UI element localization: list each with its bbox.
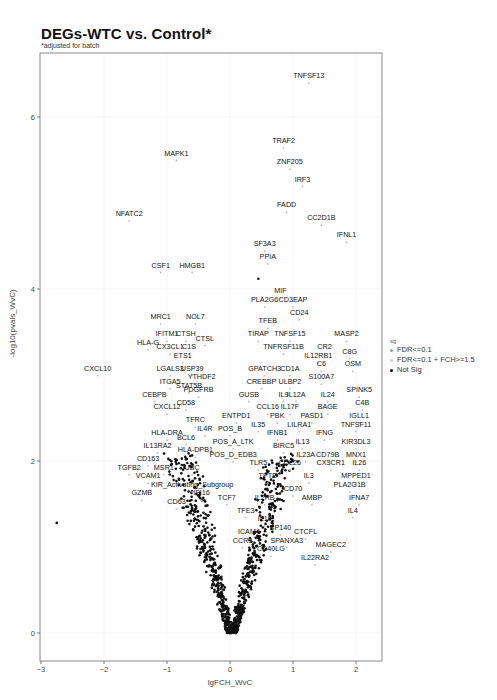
gene-label: CXCL12 bbox=[153, 402, 180, 411]
gene-label: HLA-DPB1 bbox=[178, 445, 213, 454]
legend-label: Not Sig bbox=[397, 365, 422, 375]
gene-label: LILRA1 bbox=[287, 420, 311, 429]
gene-label: CC2D1B bbox=[307, 213, 336, 222]
x-tick-label: −2 bbox=[100, 665, 109, 674]
gene-label: SPINK5 bbox=[346, 385, 372, 394]
gene-label: IL26 bbox=[352, 458, 366, 467]
gene-label: TNFSF13 bbox=[293, 71, 324, 80]
gene-label: TIRAP bbox=[248, 329, 269, 338]
gene-label: CCR9 bbox=[233, 536, 253, 545]
gene-label: PPIA bbox=[260, 252, 277, 261]
gene-label: IFNA7 bbox=[349, 493, 369, 502]
gene-label: KIR_Activating_Subgroup bbox=[151, 480, 233, 489]
gene-label: IL4 bbox=[348, 506, 358, 515]
gene-label: C4B bbox=[355, 398, 369, 407]
gene-label: IFNG bbox=[316, 428, 334, 437]
gene-label: IL22RA2 bbox=[301, 553, 329, 562]
x-tick-label: 0 bbox=[228, 665, 232, 674]
gene-label: PBK bbox=[270, 411, 285, 420]
gene-label: BCL6 bbox=[177, 433, 195, 442]
x-tick-label: −3 bbox=[37, 665, 46, 674]
gene-label: IL12A bbox=[287, 390, 306, 399]
legend-dot-icon bbox=[390, 359, 393, 362]
gene-label: MAPK1 bbox=[164, 149, 188, 158]
gene-label: KIR3DL3 bbox=[341, 437, 370, 446]
gene-label: TNFSF11 bbox=[341, 420, 372, 429]
gene-label: CD70 bbox=[284, 484, 302, 493]
gene-label: TNFRSF11B bbox=[263, 342, 304, 351]
gene-label: CXCL10 bbox=[84, 364, 111, 373]
gene-label: TFEB bbox=[259, 316, 278, 325]
gene-label: PLA2G6 bbox=[251, 295, 278, 304]
gene-label: IL2RB bbox=[255, 493, 275, 502]
gene-label: SF3A3 bbox=[254, 239, 276, 248]
gene-label: ULBP2 bbox=[278, 377, 301, 386]
gene-label: TCF7 bbox=[218, 493, 236, 502]
gene-label: BIRC5 bbox=[273, 441, 294, 450]
gene-label: IFI16 bbox=[193, 488, 209, 497]
gene-label: CD1A bbox=[280, 364, 299, 373]
gene-label: GUSB bbox=[239, 390, 260, 399]
x-tick-label: −1 bbox=[163, 665, 172, 674]
gene-label: CCL26 bbox=[279, 458, 301, 467]
gene-label: TNFSF15 bbox=[274, 329, 305, 338]
gene-label: POS_A_LTK bbox=[213, 437, 254, 446]
legend-item-fdr-fch: FDR<=0.1 + FCH>=1.5 bbox=[390, 355, 475, 365]
x-axis-label: lgFCH_WvC bbox=[208, 678, 253, 687]
gene-label: S100A7 bbox=[309, 372, 335, 381]
legend-dot-icon bbox=[390, 349, 393, 352]
legend-label: FDR<=0.1 bbox=[397, 345, 432, 355]
gene-label: CTSH bbox=[176, 329, 196, 338]
y-axis-label: -log10(pvals_WvC) bbox=[8, 289, 17, 357]
gene-label: HMGB1 bbox=[179, 261, 205, 270]
gene-label: CD24 bbox=[290, 308, 308, 317]
gene-label: ENTPD1 bbox=[222, 411, 250, 420]
x-tick-label: 1 bbox=[291, 665, 295, 674]
y-tick-label: 0 bbox=[31, 629, 35, 638]
gene-label: IL4R bbox=[197, 424, 212, 433]
gene-label: OSM bbox=[345, 359, 361, 368]
gene-label: CX3CR1 bbox=[317, 458, 345, 467]
gene-label: TLR5 bbox=[250, 458, 268, 467]
gene-label: TPTE bbox=[259, 471, 278, 480]
gene-label: PDGFRB bbox=[184, 385, 214, 394]
gene-label: TFE3 bbox=[237, 506, 255, 515]
gene-label: NOL7 bbox=[186, 312, 205, 321]
y-tick-label: 6 bbox=[31, 113, 35, 122]
legend-title: sig bbox=[390, 338, 475, 345]
gene-label: ZNF205 bbox=[277, 157, 303, 166]
gene-label: IFNL1 bbox=[337, 230, 357, 239]
x-tick-label: 2 bbox=[354, 665, 358, 674]
gene-label: CREBBP bbox=[247, 377, 277, 386]
gene-label: GZMB bbox=[131, 488, 152, 497]
gene-label: IL35 bbox=[251, 420, 265, 429]
gene-label: MASP2 bbox=[334, 329, 358, 338]
gene-label: TRAF2 bbox=[272, 136, 295, 145]
gene-label: MRC1 bbox=[151, 312, 171, 321]
gene-label: CSF1 bbox=[152, 261, 170, 270]
gene-label: IFNB1 bbox=[267, 428, 287, 437]
legend: sig FDR<=0.1 FDR<=0.1 + FCH>=1.5 Not Sig bbox=[390, 338, 475, 375]
gene-label: CD40LG bbox=[257, 544, 285, 553]
gene-label: IL13 bbox=[295, 437, 309, 446]
gene-label: CD63 bbox=[167, 497, 185, 506]
gene-label: UBC bbox=[185, 463, 200, 472]
legend-item-not-sig: Not Sig bbox=[390, 365, 475, 375]
legend-dot-icon bbox=[390, 369, 393, 372]
gene-label: FADD bbox=[277, 200, 296, 209]
gene-label: GPATCH3 bbox=[248, 364, 281, 373]
legend-label: FDR<=0.1 + FCH>=1.5 bbox=[397, 355, 475, 365]
gene-label: AMBP bbox=[302, 493, 323, 502]
gene-label: PLA2G1B bbox=[334, 480, 366, 489]
gene-label: CTSL bbox=[196, 334, 214, 343]
gene-label: ETS1 bbox=[174, 351, 192, 360]
gene-label: POS_B bbox=[218, 424, 242, 433]
gene-label: SP140 bbox=[270, 523, 292, 532]
gene-label: IRF3 bbox=[295, 175, 311, 184]
gene-label: CD3EAP bbox=[279, 295, 308, 304]
gene-label: IL3 bbox=[304, 471, 314, 480]
y-tick-label: 2 bbox=[31, 457, 35, 466]
legend-item-fdr: FDR<=0.1 bbox=[390, 345, 475, 355]
gene-label: MAGEC2 bbox=[316, 540, 346, 549]
gene-label: C8G bbox=[342, 347, 357, 356]
